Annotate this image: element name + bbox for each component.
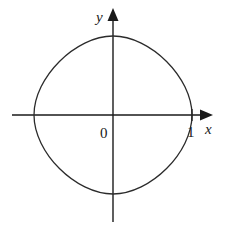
x-tick-label-1: 1	[187, 124, 195, 140]
y-axis-label: y	[94, 9, 103, 25]
origin-label: 0	[100, 125, 108, 141]
x-axis-label: x	[204, 121, 212, 137]
astroid-plot: 0 1 x y	[0, 0, 234, 227]
y-axis-arrow-icon	[108, 8, 119, 21]
astroid-figure: 0 1 x y	[0, 0, 234, 227]
x-axis-arrow-icon	[200, 110, 213, 121]
